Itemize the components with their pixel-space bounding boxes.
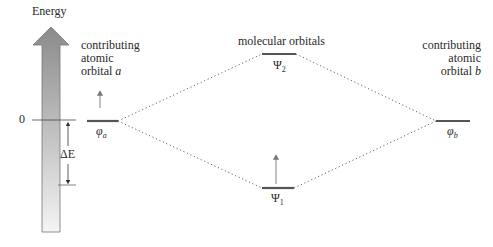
- atomic-b-label: contributing atomic orbital b: [413, 39, 481, 78]
- atomic-b-line-3: orbital b: [413, 65, 481, 78]
- psi-2-symbol: Ψ: [273, 58, 282, 72]
- zero-label: 0: [19, 113, 25, 126]
- atomic-a-line-3: orbital a: [81, 65, 140, 78]
- psi-2-sub: 2: [282, 65, 286, 74]
- phi-a-label: φa: [96, 125, 107, 142]
- energy-axis-label: Energy: [32, 5, 66, 18]
- atomic-a-label: contributing atomic orbital a: [81, 39, 140, 78]
- psi-1-symbol: Ψ: [271, 191, 280, 205]
- atomic-a-letter: a: [115, 64, 121, 78]
- delta-e-label: ΔE: [60, 148, 75, 161]
- phi-b-symbol: φ: [447, 124, 454, 138]
- psi-2-label: Ψ2: [273, 59, 286, 76]
- phi-b-sub: b: [454, 131, 458, 140]
- psi-1-sub: 1: [280, 198, 284, 207]
- psi-1-label: Ψ1: [271, 192, 284, 209]
- atomic-b-letter: b: [475, 64, 481, 78]
- atomic-a-word: orbital: [81, 64, 112, 78]
- energy-arrow-icon: [33, 27, 69, 232]
- atomic-b-word: orbital: [441, 64, 472, 78]
- phi-a-sub: a: [103, 131, 107, 140]
- phi-a-symbol: φ: [96, 124, 103, 138]
- molecular-orbitals-label: molecular orbitals: [238, 35, 325, 48]
- phi-b-label: φb: [447, 125, 458, 142]
